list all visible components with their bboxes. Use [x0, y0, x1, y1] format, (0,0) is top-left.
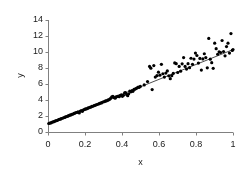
scatter-chart: 02468101214 00.20.40.60.81 x y — [0, 0, 249, 173]
y-tick-label: 4 — [38, 95, 43, 104]
x-tick-label: 1 — [218, 140, 248, 149]
x-axis-title: x — [131, 158, 151, 167]
x-tick-label: 0.8 — [181, 140, 211, 149]
x-tick-label: 0.2 — [70, 140, 100, 149]
y-axis-title: y — [16, 66, 25, 86]
y-tick-label: 6 — [38, 79, 43, 88]
y-tick-label: 14 — [33, 15, 43, 24]
y-tick-label: 0 — [38, 127, 43, 136]
y-tick-label: 2 — [38, 111, 43, 120]
y-tick-label: 12 — [33, 31, 43, 40]
y-tick-label: 8 — [38, 63, 43, 72]
x-tick-label: 0.6 — [144, 140, 174, 149]
y-tick-label: 10 — [33, 47, 43, 56]
x-tick-label: 0 — [33, 140, 63, 149]
x-tick-label: 0.4 — [107, 140, 137, 149]
